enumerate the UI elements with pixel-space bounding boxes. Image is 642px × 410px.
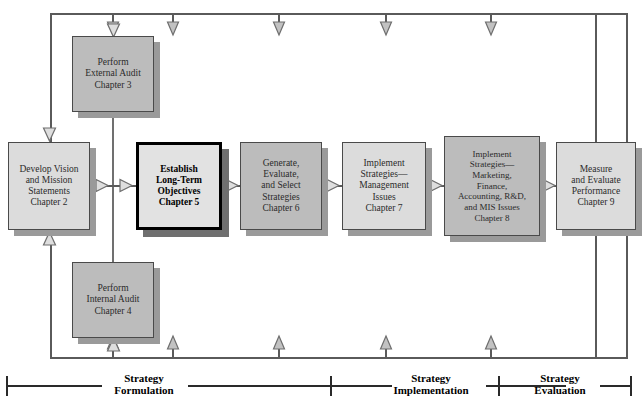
node-perform-external-audit[interactable]: Perform External Audit Chapter 3 <box>72 36 154 112</box>
feedback-arrow-up-long-term-objectives <box>272 334 286 358</box>
strategic-management-diagram: Perform External Audit Chapter 3 Develop… <box>0 0 642 410</box>
node-implement-strategies-management-label: Implement Strategies— Management Issues … <box>356 158 412 214</box>
node-measure-evaluate-performance[interactable]: Measure and Evaluate Performance Chapter… <box>556 142 636 230</box>
node-measure-evaluate-performance-label: Measure and Evaluate Performance Chapter… <box>568 164 623 209</box>
feedback-arrow-down-strategies <box>379 13 393 37</box>
audit-spine-lower <box>112 186 114 262</box>
node-establish-long-term-objectives[interactable]: Establish Long-Term Objectives Chapter 5 <box>136 142 222 230</box>
phase-label-strategy-evaluation: Strategy Evaluation <box>518 372 602 397</box>
node-develop-vision-mission[interactable]: Develop Vision and Mission Statements Ch… <box>8 142 90 230</box>
connector-measure-to-bottom <box>595 230 597 357</box>
phase-rule-evaluation-right <box>600 385 632 387</box>
feedback-loop-top-rail <box>50 13 628 15</box>
phase-label-strategy-formulation: Strategy Formulation <box>102 372 186 397</box>
flow-arrow-into-vision-mission <box>42 126 57 143</box>
phase-label-strategy-implementation: Strategy Implementation <box>378 372 484 397</box>
connector-top-to-measure <box>595 13 597 142</box>
node-implement-strategies-management[interactable]: Implement Strategies— Management Issues … <box>342 142 426 230</box>
node-generate-evaluate-select-strategies-label: Generate, Evaluate, and Select Strategie… <box>258 158 303 214</box>
node-perform-internal-audit-label: Perform Internal Audit Chapter 4 <box>83 283 142 317</box>
feedback-arrow-up-implementation <box>484 334 498 358</box>
feedback-loop-bottom-rail <box>50 357 628 359</box>
node-perform-external-audit-label: Perform External Audit Chapter 3 <box>82 57 144 91</box>
flow-arrow-vision-to-spine <box>94 178 110 193</box>
node-establish-long-term-objectives-label: Establish Long-Term Objectives Chapter 5 <box>153 164 205 209</box>
feedback-arrow-down-long-term-objectives <box>272 13 286 37</box>
feedback-arrow-up-strategies <box>379 334 393 358</box>
phase-rule-evaluation-left <box>498 385 518 387</box>
node-develop-vision-mission-label: Develop Vision and Mission Statements Ch… <box>16 164 81 209</box>
feedback-arrow-up-vision-mission <box>166 334 180 358</box>
phase-rule-formulation-right <box>188 385 330 387</box>
node-implement-strategies-functional-label: Implement Strategies— Marketing, Finance… <box>455 149 529 223</box>
feedback-arrow-down-vision-mission <box>166 13 180 37</box>
feedback-arrow-down-implementation <box>484 13 498 37</box>
phase-rule-formulation-left <box>6 385 102 387</box>
node-perform-internal-audit[interactable]: Perform Internal Audit Chapter 4 <box>72 262 154 338</box>
node-generate-evaluate-select-strategies[interactable]: Generate, Evaluate, and Select Strategie… <box>240 142 322 230</box>
flow-arrow-spine-to-objectives <box>118 178 134 193</box>
phase-tick-right-end <box>630 376 632 396</box>
node-implement-strategies-functional[interactable]: Implement Strategies— Marketing, Finance… <box>444 136 540 236</box>
audit-spine-upper <box>112 112 114 186</box>
